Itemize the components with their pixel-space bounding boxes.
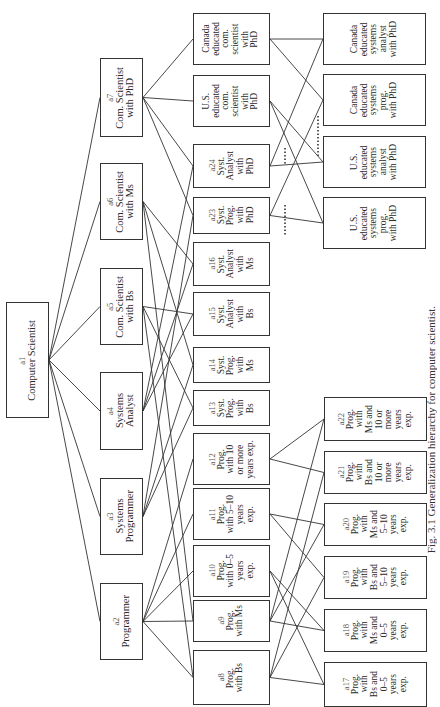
node-label: Systems Programmer	[115, 490, 136, 543]
node-a19: a19Prog. with Bs and 5–10 years exp.	[324, 556, 427, 599]
node-content: U.S. educated systems analyst with PhD	[350, 144, 398, 180]
node-content: U.S. educated systems prog. with PhD	[350, 205, 398, 241]
node-label: Canada educated com. scientist with PhD	[202, 22, 260, 56]
node-ca-sa: Canada educated systems analyst with PhD	[323, 13, 426, 65]
node-a17: a17Prog. with Bs and 0–5 years exp.	[324, 662, 427, 707]
edge-a3-a13	[143, 408, 193, 517]
node-content: a15Syst. Analyst with Bs	[208, 299, 255, 329]
node-a16: a16Syst. Analyst with Ms	[193, 242, 270, 286]
node-a13: a13Syst. Prog. with Bs	[193, 390, 270, 426]
edge-a2-a11	[143, 514, 193, 622]
node-content: a6Com. Scientist with Ms	[106, 171, 136, 233]
node-label: Systems Analyst	[115, 393, 136, 428]
node-label: Prog. with Ms and 0–5 years exp.	[351, 616, 409, 644]
edge-a8-a21	[270, 473, 324, 678]
node-label: Canada educated systems prog. with PhD	[350, 82, 398, 118]
node-content: a18Prog. with Ms and 0–5 years exp.	[342, 616, 409, 644]
node-label: Com. Scientist with Bs	[115, 276, 136, 338]
node-label: Canada educated systems analyst with PhD	[350, 21, 398, 57]
node-content: a24Syst. Analyst with PhD	[208, 151, 255, 181]
edge-a9-a18	[270, 621, 324, 631]
edge-a1-a6	[49, 202, 100, 361]
node-content: a9Prog. with Ms	[217, 605, 245, 636]
edge-a24-ca_sa	[270, 39, 323, 166]
node-content: a2Programmer	[112, 595, 131, 648]
node-content: a22Prog. with Ms and 10 or more years ex…	[337, 405, 413, 433]
node-label: U.S. educated com. scientist with PhD	[202, 84, 260, 118]
node-label: Com. Scientist with Ms	[115, 171, 136, 233]
node-content: U.S. educated com. scientist with PhD	[202, 84, 260, 118]
node-label: Syst. Analyst with Ms	[216, 249, 255, 279]
edge-a2-a12	[143, 459, 193, 622]
node-content: a17Prog. with Bs and 0–5 years exp.	[342, 671, 409, 697]
node-content: a11Prog. with 5–10 years exp.	[208, 495, 255, 533]
node-label: Computer Scientist	[26, 320, 37, 401]
node-label: Prog. with 0–5 years exp.	[216, 554, 255, 588]
edge-us_cs-us_sa	[270, 101, 323, 162]
node-label: U.S. educated systems analyst with PhD	[350, 144, 398, 180]
figure-caption: Fig. 3.1 Generalization hierarchy for co…	[423, 230, 439, 630]
edge-a8-a17	[270, 678, 324, 685]
node-content: a14Syst. Prog. with Ms	[208, 355, 255, 375]
edge-a6-a14	[143, 202, 193, 366]
node-content: a7Com. Scientist with PhD	[106, 67, 136, 129]
node-content: a12Prog. with 10 or more years exp.	[208, 440, 255, 479]
edge-a12-a21	[270, 459, 324, 473]
edge-a7-a23	[143, 98, 193, 216]
node-content: a3Systems Programmer	[106, 490, 136, 543]
node-label: Prog. with Bs and 5–10 years exp.	[351, 564, 409, 590]
node-a24: a24Syst. Analyst with PhD	[193, 144, 270, 188]
edge-a9-a20	[270, 525, 324, 622]
node-a8: a8Prog. with Bs	[193, 650, 270, 705]
edge-a1-a4	[49, 360, 100, 411]
edge-a1-a7	[49, 98, 100, 361]
edge-a9-a22	[270, 419, 324, 621]
node-label: Programmer	[120, 595, 131, 648]
edge-a7-us_cs	[143, 98, 193, 102]
node-us-sp: U.S. educated systems prog. with PhD	[323, 197, 426, 249]
node-a10: a10Prog. with 0–5 years exp.	[193, 545, 270, 597]
node-label: Syst. Prog. with Bs	[216, 398, 255, 418]
node-a22: a22Prog. with Ms and 10 or more years ex…	[324, 397, 427, 441]
node-a12: a12Prog. with 10 or more years exp.	[193, 433, 270, 485]
node-content: a5Com. Scientist with Bs	[106, 276, 136, 338]
node-label: Prog. with Ms	[226, 605, 245, 636]
node-content: a19Prog. with Bs and 5–10 years exp.	[342, 564, 409, 590]
node-label: Prog. with Ms and 5–10 years exp.	[351, 510, 409, 538]
edge-a6-a9	[143, 202, 193, 622]
node-content: a21Prog. with Bs and 10 or more years ex…	[337, 459, 413, 485]
node-content: a4Systems Analyst	[106, 393, 136, 428]
node-content: Canada educated com. scientist with PhD	[202, 22, 260, 56]
node-a18: a18Prog. with Ms and 0–5 years exp.	[324, 609, 427, 652]
node-a3: a3Systems Programmer	[100, 478, 143, 555]
node-a9: a9Prog. with Ms	[193, 600, 270, 642]
edge-a12-a22	[270, 419, 324, 459]
edge-a5-a15	[143, 307, 193, 315]
node-label: Syst. Analyst with Bs	[216, 299, 255, 329]
node-a14: a14Syst. Prog. with Ms	[193, 347, 270, 383]
caption-text: Fig. 3.1 Generalization hierarchy for co…	[425, 306, 437, 553]
edge-a23-us_sp	[270, 216, 323, 224]
node-content: a13Syst. Prog. with Bs	[208, 398, 255, 418]
node-a15: a15Syst. Analyst with Bs	[193, 292, 270, 336]
node-content: Canada educated systems prog. with PhD	[350, 82, 398, 118]
node-a4: a4Systems Analyst	[100, 372, 143, 450]
node-content: a1Computer Scientist	[18, 320, 37, 401]
edge-a6-a16	[143, 202, 193, 265]
edge-us_cs-us_sp	[270, 101, 323, 223]
edge-ca_cs-ca_sp	[270, 39, 323, 100]
node-label: Syst. Prog. with PhD	[216, 205, 255, 225]
node-ca-cs: Canada educated com. scientist with PhD	[193, 13, 270, 65]
edge-a2-a8	[143, 622, 193, 678]
edge-a1-a5	[49, 307, 100, 361]
node-content: a16Syst. Analyst with Ms	[208, 249, 255, 279]
node-a23: a23Syst. Prog. with PhD	[193, 197, 270, 234]
node-a7: a7Com. Scientist with PhD	[100, 58, 143, 137]
node-label: Prog. with Bs and 0–5 years exp.	[351, 671, 409, 697]
node-label: Prog. with 5–10 years exp.	[216, 495, 255, 533]
edge-a4-a24	[143, 166, 193, 411]
node-a20: a20Prog. with Ms and 5–10 years exp.	[324, 503, 427, 546]
node-label: Prog. with Bs	[226, 663, 245, 692]
node-label: Syst. Analyst with PhD	[216, 151, 255, 181]
